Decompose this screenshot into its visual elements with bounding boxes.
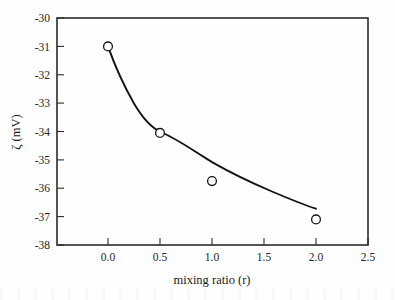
y-axis-ticks: [57, 18, 64, 245]
x-tick-label: 2.0: [309, 251, 324, 263]
y-tick-labels: -30 -31 -32 -33 -34 -35 -36 -37 -38: [35, 12, 51, 251]
data-point: [104, 42, 113, 51]
y-tick-label: -36: [35, 182, 51, 194]
data-point: [312, 215, 321, 224]
x-tick-label: 0.0: [101, 251, 116, 263]
x-tick-label: 0.5: [153, 251, 168, 263]
plot-frame: [57, 18, 368, 245]
y-tick-label: -34: [35, 126, 51, 138]
figure-container: -30 -31 -32 -33 -34 -35 -36 -37 -38 0.0 …: [0, 0, 395, 300]
x-axis-title: mixing ratio (r): [173, 273, 250, 287]
y-axis-title: ζ (mV): [9, 114, 23, 149]
y-tick-label: -38: [35, 239, 51, 251]
data-markers: [104, 42, 321, 224]
data-point: [156, 129, 165, 138]
x-axis-ticks: [108, 238, 368, 245]
y-tick-label: -33: [35, 97, 51, 109]
x-tick-labels: 0.0 0.5 1.0 1.5 2.0 2.5: [101, 251, 376, 263]
x-tick-label: 2.5: [361, 251, 376, 263]
y-tick-label: -31: [35, 41, 51, 53]
y-tick-label: -35: [35, 154, 51, 166]
y-tick-label: -30: [35, 12, 51, 24]
scan-artifact: [0, 288, 395, 300]
x-tick-label: 1.0: [205, 251, 220, 263]
x-tick-label: 1.5: [257, 251, 272, 263]
y-tick-label: -37: [35, 211, 51, 223]
zeta-potential-chart: -30 -31 -32 -33 -34 -35 -36 -37 -38 0.0 …: [0, 0, 395, 300]
y-tick-label: -32: [35, 69, 51, 81]
data-point: [208, 177, 217, 186]
